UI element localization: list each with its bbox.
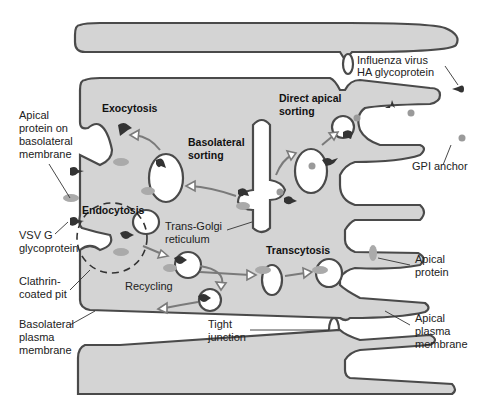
tight-junction-top <box>343 54 353 74</box>
bottom-cell <box>78 330 455 394</box>
callout-apical-protein-2: protein <box>415 266 449 279</box>
callout-clathrin-2: coated pit <box>19 288 67 301</box>
basolateral-vesicle <box>149 154 183 202</box>
callout-apical-on-basolateral-4: membrane <box>19 148 72 161</box>
callout-apical-on-basolateral-2: protein on <box>19 122 68 135</box>
apical-vesicle <box>295 149 327 193</box>
label-recycling: Recycling <box>125 280 173 293</box>
recycling-endosome <box>175 252 201 278</box>
callout-basolateral-pm-1: Basolateral <box>19 318 74 331</box>
callout-apical-pm-3: membrane <box>415 338 468 351</box>
label-exocytosis: Exocytosis <box>102 102 157 115</box>
label-direct-apical-2: sorting <box>279 105 315 118</box>
label-basolateral-sorting-2: sorting <box>188 149 224 162</box>
callout-apical-protein-1: Apical <box>415 253 445 266</box>
callout-tgn-1: Trans-Golgi <box>165 220 222 233</box>
label-direct-apical-1: Direct apical <box>279 92 341 105</box>
label-transcytosis: Transcytosis <box>266 244 330 257</box>
callout-gpi-anchor: GPI anchor <box>412 160 468 173</box>
callout-clathrin-1: Clathrin- <box>19 275 61 288</box>
callout-vsv-2: glycoprotein <box>19 242 78 255</box>
callout-vsv-1: VSV G <box>19 229 53 242</box>
label-basolateral-sorting-1: Basolateral <box>188 136 245 149</box>
label-endocytosis: Endocytosis <box>82 204 144 217</box>
callout-apical-pm-2: plasma <box>415 325 450 338</box>
callout-tight-junction-2: junction <box>208 331 246 344</box>
callout-apical-on-basolateral-1: Apical <box>19 109 49 122</box>
callout-basolateral-pm-2: plasma <box>19 331 54 344</box>
callout-tight-junction-1: Tight <box>208 318 232 331</box>
callout-basolateral-pm-3: membrane <box>19 344 72 357</box>
callout-tgn-2: reticulum <box>165 233 210 246</box>
callout-apical-pm-1: Apical <box>415 312 445 325</box>
callout-apical-on-basolateral-3: basolateral <box>19 135 73 148</box>
callout-influenza-2: HA glycoprotein <box>357 66 434 79</box>
